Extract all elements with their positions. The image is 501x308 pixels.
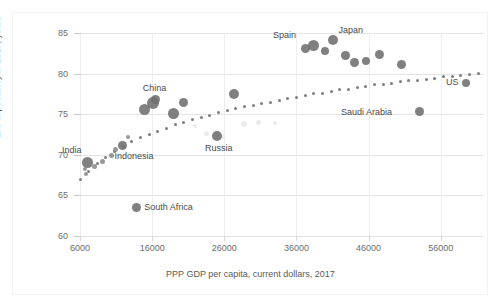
trendline-dot: [139, 136, 142, 139]
x-axis-tick: [224, 236, 225, 241]
data-point[interactable]: [109, 153, 114, 158]
trendline-dot: [148, 133, 151, 136]
data-point[interactable]: [84, 172, 88, 176]
trendline-dot: [416, 79, 419, 82]
data-point-japan[interactable]: [328, 35, 338, 45]
trendline-dot: [191, 118, 194, 121]
trendline-dot: [442, 75, 445, 78]
trendline-dot: [208, 114, 211, 117]
trendline-dot: [156, 130, 159, 133]
gridline-horizontal: [80, 236, 484, 237]
trendline-dot: [217, 111, 220, 114]
watermark-point[interactable]: [256, 120, 261, 125]
data-point[interactable]: [397, 60, 406, 69]
x-axis-title: PPP GDP per capita, current dollars, 201…: [0, 269, 501, 279]
data-point[interactable]: [126, 135, 130, 139]
trendline-dot: [433, 77, 436, 80]
x-axis-tick-label: 46000: [339, 243, 399, 253]
trendline-dot: [382, 83, 385, 86]
point-label-saudi-arabia: Saudi Arabia: [341, 107, 392, 117]
trendline-dot: [321, 92, 324, 95]
trendline-dot: [234, 107, 237, 110]
y-axis-tick-label: 60: [40, 231, 68, 241]
point-label-south-africa: South Africa: [144, 202, 193, 212]
trendline-dot: [200, 116, 203, 119]
trendline-dot: [269, 101, 272, 104]
trendline-dot: [407, 79, 410, 82]
chart-container: Life expectancy in 2017, years 606570758…: [0, 0, 501, 308]
trendline-dot: [182, 121, 185, 124]
trendline-dot: [226, 109, 229, 112]
trendline-dot: [364, 85, 367, 88]
trendline-dot: [477, 72, 480, 75]
data-point[interactable]: [229, 89, 239, 99]
x-axis-tick-label: 16000: [122, 243, 182, 253]
data-point-indonesia[interactable]: [118, 141, 127, 150]
point-label-indonesia: Indonesia: [115, 151, 154, 161]
data-point[interactable]: [179, 98, 188, 107]
data-point-russia[interactable]: [212, 131, 222, 141]
trendline-dot: [304, 94, 307, 97]
watermark-point[interactable]: [193, 124, 197, 128]
trendline-dot: [373, 83, 376, 86]
point-label-japan: Japan: [339, 25, 364, 35]
data-point[interactable]: [321, 47, 329, 55]
x-axis-tick: [152, 236, 153, 241]
data-point-us[interactable]: [462, 79, 470, 87]
trendline-dot: [130, 140, 133, 143]
trendline-dot: [286, 97, 289, 100]
point-label-us: US: [446, 77, 459, 87]
trendline-dot: [278, 99, 281, 102]
trendline-dot: [260, 102, 263, 105]
y-axis-tick-label: 75: [40, 109, 68, 119]
trendline-dot: [104, 156, 107, 159]
trendline-dot: [165, 127, 168, 130]
trendline-dot: [174, 123, 177, 126]
trendline-dot: [243, 105, 246, 108]
trendline-dot: [468, 73, 471, 76]
y-axis-tick-label: 80: [40, 69, 68, 79]
point-label-india: India: [62, 145, 82, 155]
trendline-dot: [252, 104, 255, 107]
x-axis-tick: [441, 236, 442, 241]
data-point[interactable]: [341, 51, 350, 60]
trendline-dot: [425, 78, 428, 81]
data-point-spain[interactable]: [308, 40, 319, 51]
trendline-dot: [347, 88, 350, 91]
point-label-russia: Russia: [205, 143, 233, 153]
x-axis-tick-label: 36000: [266, 243, 326, 253]
point-label-spain: Spain: [273, 30, 296, 40]
y-axis-tick-label: 85: [40, 28, 68, 38]
x-axis-tick: [369, 236, 370, 241]
trendline-dot: [399, 80, 402, 83]
trendline-dot: [295, 96, 298, 99]
x-axis-tick-label: 6000: [50, 243, 110, 253]
data-point[interactable]: [350, 58, 359, 67]
data-point[interactable]: [362, 57, 370, 65]
x-axis-tick: [80, 236, 81, 241]
x-axis-tick-label: 26000: [194, 243, 254, 253]
trendline-dot: [312, 92, 315, 95]
watermark-point[interactable]: [273, 121, 277, 125]
y-axis-title: Life expectancy in 2017, years: [0, 0, 2, 138]
trendline-dot: [330, 90, 333, 93]
trendline-dot: [459, 74, 462, 77]
data-point[interactable]: [375, 50, 384, 59]
data-point-china[interactable]: [147, 97, 159, 109]
data-point-saudi-arabia[interactable]: [415, 107, 424, 116]
plot-area: IndiaIndonesiaChinaRussiaSouth AfricaSpa…: [80, 33, 484, 236]
data-point[interactable]: [100, 159, 105, 164]
watermark-point[interactable]: [204, 131, 209, 136]
data-point-south-africa[interactable]: [132, 203, 141, 212]
data-point[interactable]: [92, 164, 97, 169]
watermark-point[interactable]: [241, 121, 247, 127]
point-label-china: China: [143, 83, 167, 93]
y-axis-tick-label: 65: [40, 190, 68, 200]
trendline-dot: [390, 82, 393, 85]
x-axis-tick-label: 56000: [411, 243, 471, 253]
trendline-dot: [356, 86, 359, 89]
trendline-dot: [338, 88, 341, 91]
x-axis-tick: [296, 236, 297, 241]
data-point[interactable]: [168, 108, 179, 119]
